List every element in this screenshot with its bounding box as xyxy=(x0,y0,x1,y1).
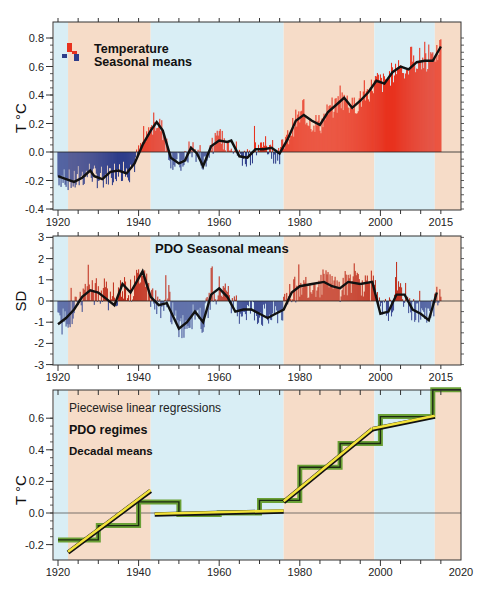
regime-band-cool xyxy=(151,390,284,560)
y-tick-label: -0.4 xyxy=(25,203,44,215)
x-tick-label: 2020 xyxy=(449,566,473,578)
climate-figure: 0.80.60.40.20.0-0.2-0.419201940196019802… xyxy=(0,0,490,592)
x-tick-label: 2000 xyxy=(368,371,392,383)
regime-band-cool xyxy=(374,236,434,365)
y-tick-label: -0.2 xyxy=(25,539,44,551)
y-tick-label: 0.6 xyxy=(29,412,44,424)
x-tick-label: 1980 xyxy=(288,566,312,578)
x-tick-label: 1960 xyxy=(207,566,231,578)
x-tick-label: 1940 xyxy=(126,566,150,578)
y-axis-title-temperature: T °C xyxy=(12,103,29,133)
y-tick-label: 3 xyxy=(38,231,44,243)
y-tick-label: 0.2 xyxy=(29,118,44,130)
x-tick-label: 1920 xyxy=(46,371,70,383)
x-tick-label: 1940 xyxy=(126,216,150,228)
y-tick-label: 0.4 xyxy=(29,444,44,456)
regression-panel: 0.60.40.20.0-0.2192019401960198020002020… xyxy=(12,390,473,578)
legend-label-seasonal-means: Seasonal means xyxy=(94,55,192,69)
x-tick-label: 1980 xyxy=(288,216,312,228)
y-tick-label: 0.0 xyxy=(29,507,44,519)
y-tick-label: 0.6 xyxy=(29,61,44,73)
legend-label-temperature: Temperature xyxy=(94,42,169,56)
x-tick-label: 2000 xyxy=(368,566,392,578)
y-tick-label: 0 xyxy=(38,295,44,307)
annotation-pdo-regimes: PDO regimes xyxy=(69,423,148,437)
pdo-panel: 3210-1-2-3192019401960198020002015 PDO S… xyxy=(12,231,464,383)
regime-band-warm xyxy=(284,390,375,560)
x-tick-label: 2015 xyxy=(429,216,453,228)
regime-band-cool xyxy=(54,390,68,560)
x-tick-label: 1920 xyxy=(46,566,70,578)
annotation-piecewise: Piecewise linear regressions xyxy=(69,401,221,415)
y-tick-label: -2 xyxy=(34,337,44,349)
regime-band-warm xyxy=(435,390,461,560)
y-tick-label: 0.2 xyxy=(29,475,44,487)
x-tick-label: 2000 xyxy=(368,216,392,228)
y-tick-label: 1 xyxy=(38,274,44,286)
x-tick-label: 1980 xyxy=(288,371,312,383)
y-tick-label: -3 xyxy=(34,359,44,371)
x-tick-label: 1960 xyxy=(207,371,231,383)
y-axis-title-temperature: T °C xyxy=(12,475,29,505)
regime-band-cool xyxy=(54,236,68,365)
regime-band-warm xyxy=(435,236,461,365)
temperature-panel: 0.80.60.40.20.0-0.2-0.419201940196019802… xyxy=(12,18,464,228)
regime-band-cool xyxy=(151,22,284,210)
x-tick-label: 1920 xyxy=(46,216,70,228)
y-axis-title-sd: SD xyxy=(12,290,29,311)
y-tick-label: 0.0 xyxy=(29,146,44,158)
y-tick-label: -0.2 xyxy=(25,175,44,187)
x-tick-label: 1940 xyxy=(126,371,150,383)
x-tick-label: 2015 xyxy=(429,371,453,383)
annotation-decadal-means: Decadal means xyxy=(69,445,153,457)
y-tick-label: 2 xyxy=(38,253,44,265)
y-tick-label: 0.8 xyxy=(29,32,44,44)
x-tick-label: 1960 xyxy=(207,216,231,228)
pdo-title: PDO Seasonal means xyxy=(155,241,289,256)
regime-band-warm xyxy=(68,390,151,560)
y-tick-label: -1 xyxy=(34,316,44,328)
y-tick-label: 0.4 xyxy=(29,89,44,101)
